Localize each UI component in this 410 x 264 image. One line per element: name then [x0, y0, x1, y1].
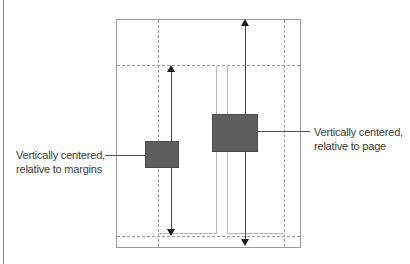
label-page-line2: relative to page — [314, 139, 403, 153]
box-centered-margins — [145, 141, 179, 168]
guide-line — [227, 151, 228, 233]
label-page-line1: Vertically centered, — [314, 125, 403, 139]
right-margin-guide — [284, 20, 285, 247]
arrow-down-icon — [167, 229, 175, 236]
label-margins: Vertically centered, relative to margins — [16, 148, 105, 176]
box-centered-page — [212, 114, 258, 152]
left-border-line — [3, 0, 4, 264]
leader-line-margins — [105, 155, 145, 156]
guide-line — [227, 233, 284, 234]
guide-line — [216, 66, 217, 114]
guide-line — [227, 66, 228, 114]
left-margin-guide — [158, 20, 159, 247]
top-margin-guide — [117, 65, 300, 66]
label-margins-line2: relative to margins — [16, 162, 105, 176]
bottom-margin-guide — [117, 236, 300, 237]
arrow-up-icon — [241, 19, 249, 26]
guide-line — [216, 151, 217, 233]
arrow-up-icon — [167, 65, 175, 72]
label-margins-line1: Vertically centered, — [16, 148, 105, 162]
arrow-down-icon — [241, 239, 249, 246]
label-page: Vertically centered, relative to page — [314, 125, 403, 153]
leader-line-page — [258, 131, 310, 132]
page-outline — [116, 19, 301, 248]
